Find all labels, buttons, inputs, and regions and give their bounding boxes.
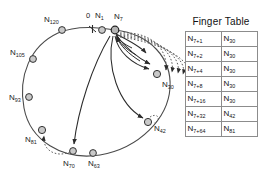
finger-table-row: N7+32N42 [185, 107, 257, 122]
finger-successor-subscript: 30 [229, 98, 235, 104]
finger-successor-cell: N81 [221, 122, 257, 137]
finger-key-cell: N7+8 [185, 77, 221, 92]
finger-key-subscript: 7+8 [193, 83, 202, 89]
node-label-n120: N120 [44, 15, 59, 25]
finger-successor-cell: N42 [221, 107, 257, 122]
finger-successor-subscript: 30 [229, 68, 235, 74]
ring-node-n42 [144, 118, 151, 125]
finger-table: N7+1N30N7+2N30N7+4N30N7+8N30N7+16N30N7+3… [185, 31, 258, 137]
finger-table-row: N7+64N81 [185, 122, 257, 137]
ring-node-n7 [111, 26, 119, 34]
finger-table-row: N7+4N30 [185, 62, 257, 77]
finger-successor-cell: N30 [221, 77, 257, 92]
finger-successor-cell: N30 [221, 32, 257, 47]
ring-node-n30 [153, 70, 160, 77]
figure-root: 0 N1 N7 N30 N42 N63 N70 [0, 0, 268, 172]
ring-node-n120 [59, 27, 66, 34]
finger-arc-n70-to-n81 [44, 136, 70, 154]
finger-successor-cell: N30 [221, 47, 257, 62]
finger-successor-subscript: 81 [229, 128, 235, 134]
finger-successor-subscript: 30 [229, 38, 235, 44]
finger-key-cell: N7+64 [185, 122, 221, 137]
identifier-ring-circle [22, 27, 170, 156]
finger-key-cell: N7+2 [185, 47, 221, 62]
node-label-n42: N42 [154, 124, 166, 134]
ring-node-n105 [30, 56, 37, 63]
return-arcs-to-n7 [117, 35, 140, 61]
node-label-n93: N93 [9, 93, 21, 103]
ring-node-n63 [90, 150, 97, 157]
finger-successor-subscript: 42 [229, 113, 235, 119]
finger-successor-subscript: 30 [229, 53, 235, 59]
node-label-n70: N70 [63, 159, 75, 169]
finger-successor-cell: N30 [221, 62, 257, 77]
origin-tick-mark [89, 25, 96, 33]
node-label-n30: N30 [162, 80, 174, 90]
chord-arrow-n7-to-n70 [74, 36, 110, 144]
node-label-n81: N81 [25, 135, 37, 145]
node-label-n1: N1 [95, 11, 104, 21]
finger-key-cell: N7+16 [185, 92, 221, 107]
origin-tick-label: 0 [86, 11, 90, 20]
chord-successor-arrows [74, 34, 150, 144]
finger-table-body: N7+1N30N7+2N30N7+4N30N7+8N30N7+16N30N7+3… [185, 32, 257, 137]
finger-key-cell: N7+4 [185, 62, 221, 77]
finger-key-subscript: 7+32 [193, 113, 205, 119]
finger-table-row: N7+2N30 [185, 47, 257, 62]
finger-successor-cell: N30 [221, 92, 257, 107]
finger-key-subscript: 7+2 [193, 53, 202, 59]
finger-key-subscript: 7+4 [193, 68, 202, 74]
finger-table-panel: Finger Table N7+1N30N7+2N30N7+4N30N7+8N3… [178, 16, 264, 137]
finger-key-subscript: 7+16 [193, 98, 205, 104]
finger-key-subscript: 7+1 [193, 38, 202, 44]
ring-nodes [26, 26, 161, 156]
finger-table-row: N7+8N30 [185, 77, 257, 92]
finger-key-subscript: 7+64 [193, 128, 205, 134]
ring-node-labels: 0 N1 N7 N30 N42 N63 N70 [9, 11, 174, 169]
finger-key-cell: N7+1 [185, 32, 221, 47]
ring-node-n70 [70, 148, 77, 155]
finger-table-row: N7+1N30 [185, 32, 257, 47]
finger-successor-subscript: 30 [229, 83, 235, 89]
ring-node-n1 [99, 27, 106, 34]
finger-key-cell: N7+32 [185, 107, 221, 122]
ring-node-n93 [26, 94, 33, 101]
finger-table-title: Finger Table [178, 16, 264, 27]
node-label-n63: N63 [88, 159, 100, 169]
ring-node-n81 [38, 126, 45, 133]
node-label-n7: N7 [114, 12, 123, 22]
node-label-n105: N105 [10, 48, 25, 58]
finger-table-row: N7+16N30 [185, 92, 257, 107]
